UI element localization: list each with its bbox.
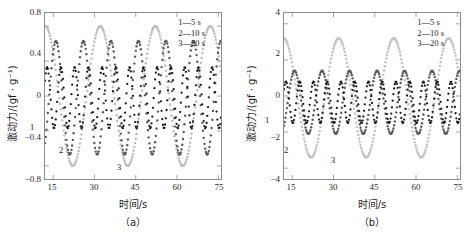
- plot-area-a: 1—5 s 2—10 s 3—20 s: [44, 12, 222, 180]
- x-tick-labels-b: 15 30 45 60 75: [283, 182, 461, 196]
- y-tick-a-2: 0: [37, 91, 42, 100]
- panel-caption-a: （a）: [44, 214, 222, 229]
- x-tick-b-2: 45: [370, 182, 379, 192]
- legend-entry-2: 2—10 s: [178, 28, 205, 39]
- x-tick-a-0: 15: [48, 182, 57, 192]
- x-tick-a-3: 60: [173, 182, 182, 192]
- y-tick-b-1: 2: [276, 49, 281, 58]
- legend-a: 1—5 s 2—10 s 3—20 s: [178, 17, 205, 49]
- legend-entry-2: 2—10 s: [417, 28, 444, 39]
- legend-entry-3: 3—20 s: [417, 38, 444, 49]
- y-tick-a-4: −0.8: [25, 175, 41, 184]
- plot-area-b: 1—5 s 2—10 s 3—20 s: [283, 12, 461, 180]
- curve-label-2: 2: [284, 146, 288, 155]
- legend-b: 1—5 s 2—10 s 3—20 s: [417, 17, 444, 49]
- y-axis-title-b: 激动力/(gf · g⁻¹): [243, 49, 258, 159]
- figure-root: 1—5 s 2—10 s 3—20 s 0.8 0.4 0 −0.4 −0.8 …: [0, 0, 471, 237]
- y-tick-b-0: 4: [276, 8, 281, 17]
- x-tick-a-4: 75: [215, 182, 224, 192]
- x-tick-b-1: 30: [329, 182, 338, 192]
- legend-entry-1: 1—5 s: [417, 17, 444, 28]
- x-tick-b-3: 60: [412, 182, 421, 192]
- curve-label-1: 1: [30, 123, 34, 132]
- chart-panel-b: 1—5 s 2—10 s 3—20 s 4 2 0 −2 −4 15 30 45…: [235, 0, 471, 237]
- curve-label-1: 1: [265, 116, 269, 125]
- curve-label-2: 2: [59, 146, 63, 155]
- legend-entry-1: 1—5 s: [178, 17, 205, 28]
- x-tick-a-2: 45: [131, 182, 140, 192]
- y-tick-a-1: 0.4: [30, 49, 41, 58]
- y-tick-a-0: 0.8: [30, 8, 41, 17]
- y-tick-a-3: −0.4: [25, 133, 41, 142]
- y-tick-b-4: −4: [270, 175, 280, 184]
- x-tick-b-0: 15: [287, 182, 296, 192]
- y-tick-b-2: 0: [276, 91, 281, 100]
- x-tick-labels-a: 15 30 45 60 75: [44, 182, 222, 196]
- curve-label-3: 3: [331, 156, 335, 165]
- panel-caption-b: （b）: [283, 214, 461, 229]
- legend-entry-3: 3—20 s: [178, 38, 205, 49]
- x-axis-title-a: 时间/s: [44, 196, 222, 211]
- x-tick-b-4: 75: [454, 182, 463, 192]
- y-axis-title-a: 激动力/(gf · g⁻¹): [4, 49, 19, 159]
- x-axis-title-b: 时间/s: [283, 196, 461, 211]
- y-tick-b-3: −2: [270, 133, 280, 142]
- chart-panel-a: 1—5 s 2—10 s 3—20 s 0.8 0.4 0 −0.4 −0.8 …: [0, 0, 235, 237]
- x-tick-a-1: 30: [90, 182, 99, 192]
- curve-label-3: 3: [117, 163, 121, 172]
